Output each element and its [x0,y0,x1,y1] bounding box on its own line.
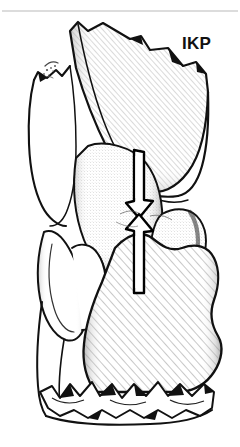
label-ikp: IKP [182,35,211,52]
upper-tooth-left-root [29,66,76,226]
tooth-occlusion-line-drawing [0,0,240,447]
figure-container: IKP [0,0,240,447]
